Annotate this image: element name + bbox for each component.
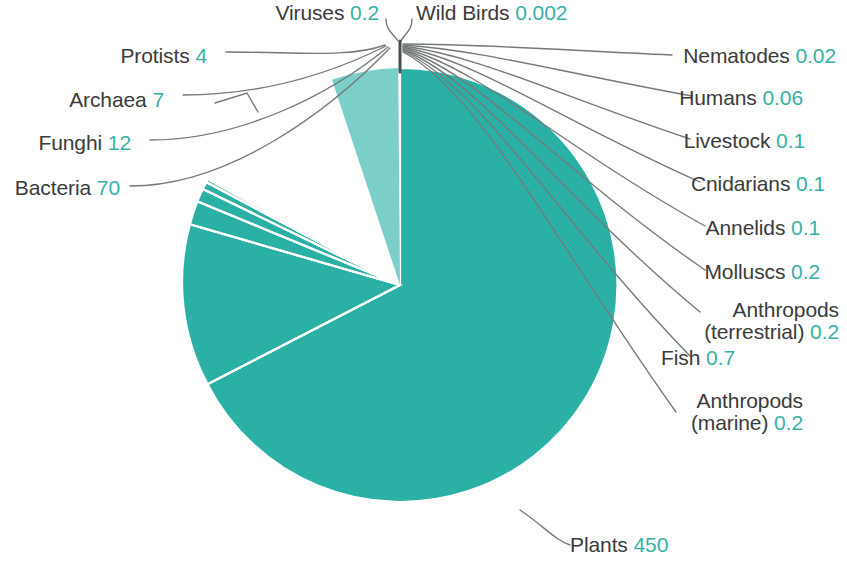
label-humans-value: 0.06 xyxy=(763,86,803,109)
label-fish-value: 0.7 xyxy=(706,346,735,369)
label-molluscs-value: 0.2 xyxy=(791,260,820,283)
label-archaea-name: Archaea xyxy=(69,88,147,111)
label-funghi-value: 12 xyxy=(108,131,131,154)
label-protists-value: 4 xyxy=(195,44,207,67)
label-livestock-value: 0.1 xyxy=(776,129,805,152)
label-anthropods-terrestrial-line2: (terrestrial) xyxy=(704,320,804,343)
label-bacteria-value: 70 xyxy=(97,176,120,199)
label-cnidarians-name: Cnidarians xyxy=(691,172,790,195)
label-fish[interactable]: Fish 0.7 xyxy=(661,346,735,369)
label-cnidarians-value: 0.1 xyxy=(796,172,825,195)
leader-viruses xyxy=(386,19,398,41)
label-molluscs-name: Molluscs xyxy=(704,260,785,283)
label-archaea-value: 7 xyxy=(152,88,164,111)
label-bacteria-name: Bacteria xyxy=(15,176,91,199)
label-bacteria[interactable]: Bacteria 70 xyxy=(15,176,120,199)
label-protists-name: Protists xyxy=(120,44,189,67)
label-molluscs[interactable]: Molluscs 0.2 xyxy=(704,260,820,283)
label-viruses-name: Viruses xyxy=(275,1,344,24)
label-cnidarians[interactable]: Cnidarians 0.1 xyxy=(691,172,825,195)
label-nematodes-name: Nematodes xyxy=(683,44,790,67)
label-nematodes[interactable]: Nematodes 0.02 xyxy=(683,44,836,67)
label-wild-birds-value: 0.002 xyxy=(515,1,567,24)
label-funghi-name: Funghi xyxy=(38,131,102,154)
label-protists[interactable]: Protists 4 xyxy=(120,44,207,67)
label-nematodes-value: 0.02 xyxy=(796,44,836,67)
label-annelids-value: 0.1 xyxy=(791,216,820,239)
label-anthropods-terrestrial[interactable]: Anthropods (terrestrial) 0.2 xyxy=(704,299,839,343)
label-anthropods-marine-line1: Anthropods xyxy=(691,390,803,412)
leader-wild-birds xyxy=(401,19,412,41)
label-fish-name: Fish xyxy=(661,346,700,369)
label-wild-birds[interactable]: Wild Birds 0.002 xyxy=(416,1,567,24)
label-annelids-name: Annelids xyxy=(706,216,786,239)
label-wild-birds-name: Wild Birds xyxy=(416,1,510,24)
label-plants[interactable]: Plants 450 xyxy=(570,533,668,556)
label-livestock[interactable]: Livestock 0.1 xyxy=(684,129,805,152)
label-anthropods-marine-line2: (marine) xyxy=(691,411,768,434)
label-anthropods-marine-value: 0.2 xyxy=(774,411,803,434)
label-funghi[interactable]: Funghi 12 xyxy=(38,131,131,154)
label-livestock-name: Livestock xyxy=(684,129,771,152)
leader-protists xyxy=(226,45,385,53)
leader-plants xyxy=(520,510,570,545)
biomass-pie-chart: Protists 4 Archaea 7 Funghi 12 Bacteria … xyxy=(0,0,847,565)
label-humans[interactable]: Humans 0.06 xyxy=(679,86,803,109)
label-plants-value: 450 xyxy=(634,533,669,556)
label-viruses-value: 0.2 xyxy=(350,1,379,24)
label-plants-name: Plants xyxy=(570,533,628,556)
label-anthropods-marine[interactable]: Anthropods (marine) 0.2 xyxy=(691,390,803,434)
leader-archaea-elbow xyxy=(215,93,258,112)
label-anthropods-terrestrial-value: 0.2 xyxy=(810,320,839,343)
label-viruses[interactable]: Viruses 0.2 xyxy=(275,1,379,24)
label-humans-name: Humans xyxy=(679,86,757,109)
label-anthropods-terrestrial-line1: Anthropods xyxy=(704,299,839,321)
label-archaea[interactable]: Archaea 7 xyxy=(69,88,164,111)
label-annelids[interactable]: Annelids 0.1 xyxy=(706,216,820,239)
